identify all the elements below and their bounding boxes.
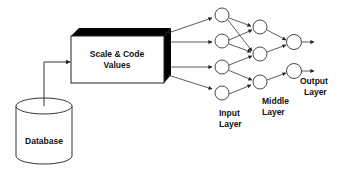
database-label: Database: [25, 136, 63, 146]
middle-layer-label-1: Middle: [262, 96, 289, 106]
input-layer-label-2: Layer: [219, 119, 242, 129]
input-node-2: [215, 34, 229, 48]
scale-code-box: Scale & Code Values: [71, 28, 171, 83]
output-layer-label-2: Layer: [304, 87, 327, 97]
box-label-line1: Scale & Code: [90, 49, 145, 59]
input-node-3: [215, 60, 229, 74]
input-layer-label-1: Input: [219, 108, 240, 118]
input-node-1: [215, 8, 229, 22]
middle-node-3: [253, 75, 267, 89]
middle-layer-label-2: Layer: [262, 107, 285, 117]
input-node-4: [215, 86, 229, 100]
middle-node-2: [253, 47, 267, 61]
middle-node-1: [253, 20, 267, 34]
box-to-input-arrows: [168, 18, 212, 89]
box-label-line2: Values: [104, 60, 131, 70]
input-middle-connections: [228, 18, 252, 94]
output-node-1: [287, 35, 302, 50]
neural-network-diagram: Database Scale & Code Values: [0, 0, 338, 180]
database-cylinder: Database: [16, 98, 72, 164]
output-layer-label-1: Output: [300, 76, 328, 86]
